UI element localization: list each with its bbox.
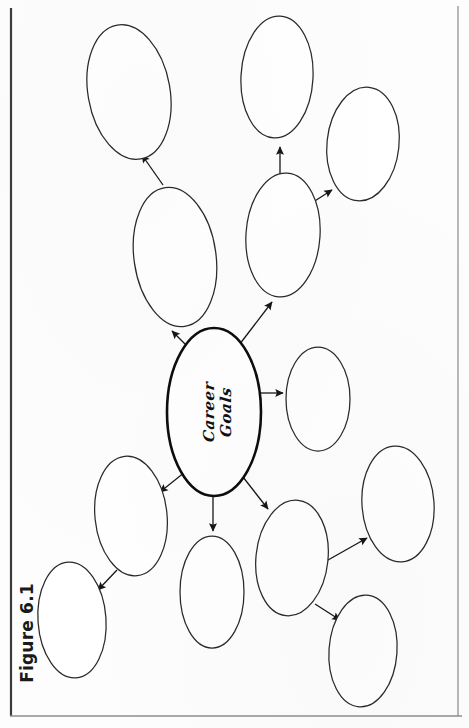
node-leaf-4[interactable] — [358, 444, 438, 565]
node-leaf-5[interactable] — [325, 593, 401, 709]
node-career-goals[interactable] — [167, 328, 261, 496]
arrow-branch-6-to-leaf-6 — [98, 570, 117, 590]
node-branch-6[interactable] — [89, 453, 173, 580]
node-branch-4[interactable] — [250, 497, 334, 620]
figure-frame: Career Goals Figure 6.1 — [0, 0, 469, 728]
node-branch-2[interactable] — [242, 171, 324, 300]
node-branch-3[interactable] — [286, 347, 350, 451]
node-leaf-2[interactable] — [238, 14, 316, 140]
node-leaf-1[interactable] — [77, 18, 181, 166]
arrow-branch-4-to-leaf-5 — [315, 604, 340, 620]
central-node-group — [167, 328, 261, 496]
node-leaf-6[interactable] — [34, 560, 110, 680]
mind-map-diagram — [0, 0, 469, 728]
node-branch-1[interactable] — [125, 182, 226, 332]
node-leaf-3[interactable] — [321, 84, 405, 205]
arrow-center-to-branch-6 — [160, 472, 185, 492]
figure-page: Career Goals Figure 6.1 — [0, 0, 469, 728]
node-branch-5[interactable] — [180, 536, 244, 648]
arrow-branch-1-to-leaf-1 — [142, 155, 163, 185]
figure-caption: Figure 6.1 — [14, 578, 40, 688]
arrow-center-to-branch-4 — [243, 477, 268, 509]
